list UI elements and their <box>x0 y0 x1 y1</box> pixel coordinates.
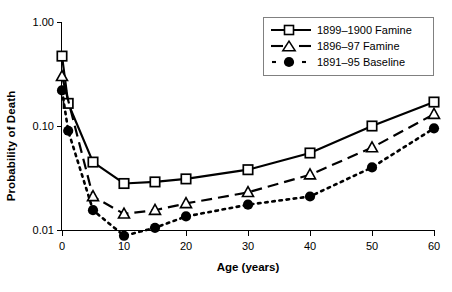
x-tick-label: 10 <box>118 240 130 252</box>
legend-label: 1891–95 Baseline <box>317 56 405 68</box>
x-tick-mark <box>186 231 187 236</box>
x-tick-mark <box>372 231 373 236</box>
x-axis-title: Age (years) <box>62 261 434 273</box>
x-tick-label: 50 <box>366 240 378 252</box>
death-probability-by-age-chart: Probability of Death 1.000.100.01 010203… <box>0 0 452 292</box>
legend-label: 1899–1900 Famine <box>317 24 412 36</box>
data-point-filled-circle <box>243 200 253 210</box>
data-point-open-square <box>367 121 376 130</box>
data-point-open-triangle <box>366 142 377 152</box>
legend-swatch-open-triangle <box>270 39 312 53</box>
x-tick-label: 60 <box>428 240 440 252</box>
y-tick-label: 0.01 <box>33 224 54 236</box>
data-point-filled-circle <box>367 162 377 172</box>
x-tick-mark <box>434 231 435 236</box>
y-axis-title: Probability of Death <box>0 0 22 292</box>
data-point-filled-circle <box>150 223 160 233</box>
data-point-open-square <box>150 177 159 186</box>
data-point-open-square <box>88 157 97 166</box>
y-tick-label: 1.00 <box>33 16 54 28</box>
data-point-open-triangle <box>428 108 439 118</box>
x-tick-mark <box>310 231 311 236</box>
legend-label: 1896–97 Famine <box>317 40 400 52</box>
data-point-filled-circle <box>305 191 315 201</box>
x-tick-mark <box>248 231 249 236</box>
data-point-open-square <box>119 179 128 188</box>
data-point-open-triangle <box>56 71 67 81</box>
legend-item-1899-1900-famine[interactable]: 1899–1900 Famine <box>270 22 427 38</box>
x-tick-label: 20 <box>180 240 192 252</box>
x-tick-label: 40 <box>304 240 316 252</box>
data-point-filled-circle <box>88 205 98 215</box>
data-point-filled-circle <box>181 211 191 221</box>
data-point-open-square <box>181 174 190 183</box>
data-point-filled-circle <box>57 85 67 95</box>
data-point-open-square <box>305 148 314 157</box>
data-point-open-square <box>57 51 66 60</box>
x-tick-label: 0 <box>59 240 65 252</box>
legend-item-1891-95-baseline[interactable]: 1891–95 Baseline <box>270 54 427 70</box>
x-tick-mark <box>62 231 63 236</box>
x-tick-label: 30 <box>242 240 254 252</box>
data-point-filled-circle <box>429 123 439 133</box>
data-point-filled-circle <box>63 126 73 136</box>
y-tick-label: 0.10 <box>33 120 54 132</box>
legend-item-1896-97-famine[interactable]: 1896–97 Famine <box>270 38 427 54</box>
legend-swatch-open-square <box>270 23 312 37</box>
series-line <box>62 90 434 235</box>
data-point-filled-circle <box>119 231 129 241</box>
data-point-open-square <box>243 165 252 174</box>
data-point-open-square <box>429 97 438 106</box>
series-2 <box>56 71 439 218</box>
legend-swatch-filled-circle <box>270 55 312 69</box>
data-point-open-triangle <box>304 169 315 179</box>
legend: 1899–1900 Famine 1896–97 Famine 1891–95 … <box>263 17 434 76</box>
series-3 <box>57 85 439 241</box>
